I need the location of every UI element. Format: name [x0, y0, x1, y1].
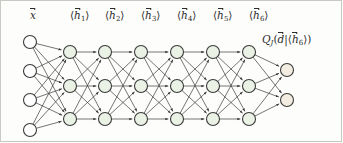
network-edge: [33, 48, 66, 112]
output-expression-label: QJ(d|⟨h6⟩): [262, 34, 311, 47]
network-edge: [36, 44, 61, 50]
network-edge: [182, 58, 207, 82]
network-edge: [253, 57, 282, 93]
network-edge: [75, 58, 99, 81]
network-node-hidden-1-2: [64, 80, 77, 93]
layer-label-h4: ⟨h4⟩: [177, 10, 196, 23]
network-node-input-1: [24, 36, 37, 49]
layer-label-h5: ⟨h5⟩: [213, 10, 232, 23]
network-node-hidden-6-2: [243, 80, 256, 93]
network-edge: [110, 90, 135, 113]
network-node-hidden-2-3: [99, 113, 112, 126]
network-node-output-1: [281, 64, 294, 77]
network-edge: [34, 92, 64, 125]
network-node-input-2: [24, 65, 37, 78]
network-edge: [180, 60, 209, 114]
network-node-hidden-4-1: [171, 46, 184, 59]
network-node-hidden-6-3: [243, 113, 256, 126]
network-node-hidden-1-1: [64, 46, 77, 59]
network-node-hidden-6-1: [243, 46, 256, 59]
network-edge: [218, 58, 243, 82]
layer-label-h2: ⟨h2⟩: [105, 10, 124, 23]
network-edge: [255, 104, 279, 116]
network-graph: [0, 0, 343, 143]
network-node-hidden-5-2: [207, 80, 220, 93]
network-edge: [34, 76, 64, 112]
layer-label-h3: ⟨h3⟩: [141, 10, 160, 23]
layer-label-input: x: [30, 10, 36, 21]
network-edge: [146, 90, 171, 113]
network-node-hidden-1-3: [64, 113, 77, 126]
network-node-hidden-3-1: [135, 46, 148, 59]
network-node-input-4: [24, 124, 37, 137]
network-node-hidden-3-2: [135, 80, 148, 93]
network-edge: [216, 60, 245, 114]
network-edge: [146, 58, 171, 82]
network-node-hidden-2-1: [99, 46, 112, 59]
network-node-hidden-3-3: [135, 113, 148, 126]
network-edge: [108, 60, 137, 114]
network-edge: [182, 90, 207, 113]
network-node-hidden-5-3: [207, 113, 220, 126]
network-edge: [75, 90, 99, 113]
layer-label-h6: ⟨h6⟩: [249, 10, 268, 23]
network-edge: [73, 60, 101, 114]
network-edge: [110, 58, 135, 82]
network-node-input-3: [24, 94, 37, 107]
network-edge: [218, 90, 243, 113]
network-edge: [36, 121, 61, 128]
network-node-hidden-4-2: [171, 80, 184, 93]
network-node-hidden-4-3: [171, 113, 184, 126]
network-node-hidden-5-1: [207, 46, 220, 59]
layer-label-h1: ⟨h1⟩: [70, 10, 89, 23]
network-node-hidden-2-2: [99, 80, 112, 93]
network-edge: [144, 60, 173, 114]
network-node-output-2: [281, 94, 294, 107]
network-diagram-figure: x ⟨h1⟩ ⟨h2⟩ ⟨h3⟩ ⟨h4⟩ ⟨h5⟩ ⟨h6⟩ QJ(d|⟨h6…: [0, 0, 343, 143]
